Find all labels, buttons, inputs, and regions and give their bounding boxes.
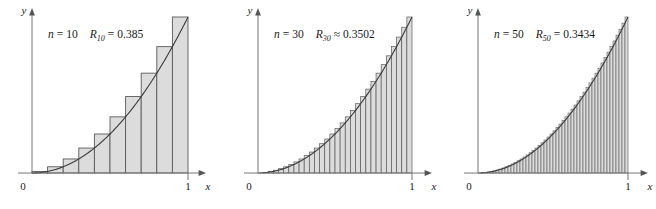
r-symbol: R: [315, 28, 323, 40]
riemann-bar: [622, 23, 625, 173]
r-relation: ≈: [334, 28, 340, 40]
riemann-bar: [340, 123, 345, 173]
riemann-bar: [553, 131, 556, 173]
x-tick-label-origin: 0: [20, 180, 26, 192]
riemann-bar: [141, 73, 157, 173]
riemann-bar: [529, 153, 532, 173]
x-tick-label-one: 1: [409, 180, 415, 192]
y-axis-arrow-icon: [475, 8, 481, 15]
r-subscript: 30: [322, 34, 331, 43]
riemann-bar: [535, 148, 538, 173]
riemann-bar: [559, 124, 562, 173]
n-value: 10: [66, 28, 78, 40]
riemann-bar: [562, 121, 565, 173]
x-axis-label: x: [647, 180, 653, 192]
riemann-bar: [616, 35, 619, 173]
n-symbol: n: [274, 28, 280, 40]
n-relation: =: [57, 28, 64, 40]
y-axis-label: y: [21, 4, 27, 16]
panel-n50-annotation: n=50R50=0.3434: [494, 28, 595, 43]
riemann-bar: [376, 73, 381, 173]
n-value: 50: [512, 28, 524, 40]
riemann-bar: [532, 150, 535, 173]
panel-n50-plot: y x 0 1 n=50R50=0.3434: [446, 0, 656, 209]
panel-n30-annotation: n=30R30≈0.3502: [274, 28, 375, 43]
riemann-bar: [371, 81, 376, 173]
riemann-bar: [601, 63, 604, 173]
r-value: 0.385: [117, 28, 143, 40]
x-axis-label: x: [205, 180, 211, 192]
riemann-bar: [407, 17, 412, 173]
riemann-bar: [604, 58, 607, 173]
riemann-bar: [526, 155, 529, 173]
x-tick-label-one: 1: [185, 180, 191, 192]
n-value: 30: [292, 28, 304, 40]
panel-n30-plot: y x 0 1 n=30R30≈0.3502: [226, 0, 444, 209]
r-subscript: 10: [97, 34, 105, 43]
riemann-bar: [619, 29, 622, 173]
riemann-bar: [381, 65, 386, 173]
riemann-bar: [544, 140, 547, 173]
panel-n10-annotation: n=10R10=0.385: [48, 28, 143, 43]
y-axis-arrow-icon: [255, 8, 261, 15]
riemann-bar: [568, 113, 571, 173]
riemann-bar: [366, 89, 371, 173]
bars-n50: [481, 17, 628, 173]
riemann-bar: [172, 17, 188, 173]
riemann-sum-figure: y x 0 1 n=10R10=0.385 y x 0 1 n=30R30≈0.…: [0, 0, 656, 209]
riemann-bar: [613, 41, 616, 173]
y-axis-label: y: [467, 4, 473, 16]
riemann-bar: [361, 97, 366, 173]
r-subscript: 50: [543, 34, 551, 43]
bars-n10: [32, 17, 188, 173]
x-axis-arrow-icon: [641, 170, 648, 176]
riemann-bar: [523, 157, 526, 173]
riemann-bar: [550, 134, 553, 173]
riemann-bar: [610, 47, 613, 173]
riemann-bar: [345, 117, 350, 173]
riemann-bar: [157, 47, 173, 173]
r-relation: =: [554, 28, 561, 40]
riemann-bar: [79, 148, 95, 173]
riemann-bar: [565, 117, 568, 173]
riemann-bar: [391, 47, 396, 173]
panel-n10: y x 0 1 n=10R10=0.385: [0, 0, 218, 209]
y-axis-label: y: [247, 4, 253, 16]
r-value: 0.3434: [563, 28, 595, 40]
r-symbol: R: [89, 28, 97, 40]
panel-n50: y x 0 1 n=50R50=0.3434: [446, 0, 656, 209]
x-tick-label-origin: 0: [466, 180, 472, 192]
riemann-bar: [356, 104, 361, 173]
riemann-bar: [397, 37, 402, 173]
riemann-bar: [625, 17, 628, 173]
riemann-bar: [335, 129, 340, 173]
panel-n10-plot: y x 0 1 n=10R10=0.385: [0, 0, 218, 209]
r-value: 0.3502: [343, 28, 375, 40]
riemann-bar: [595, 73, 598, 173]
riemann-bar: [607, 52, 610, 173]
riemann-bar: [589, 83, 592, 173]
y-axis-arrow-icon: [29, 8, 35, 15]
r-symbol: R: [535, 28, 543, 40]
riemann-bar: [541, 143, 544, 173]
x-tick-label-one: 1: [625, 180, 631, 192]
x-axis-label: x: [431, 180, 437, 192]
riemann-bar: [574, 105, 577, 173]
x-tick-label-origin: 0: [246, 180, 252, 192]
riemann-bar: [386, 56, 391, 173]
riemann-bar: [583, 92, 586, 173]
riemann-bar: [538, 145, 541, 173]
riemann-bar: [592, 78, 595, 173]
n-symbol: n: [48, 28, 54, 40]
riemann-bar: [580, 97, 583, 173]
riemann-bar: [402, 27, 407, 173]
x-axis-arrow-icon: [425, 170, 432, 176]
riemann-bar: [94, 134, 110, 173]
riemann-bar: [571, 109, 574, 173]
riemann-bar: [586, 88, 589, 173]
riemann-bar: [547, 137, 550, 173]
riemann-bar: [350, 110, 355, 173]
n-symbol: n: [494, 28, 500, 40]
riemann-bar: [556, 128, 559, 173]
bars-n30: [263, 17, 412, 173]
